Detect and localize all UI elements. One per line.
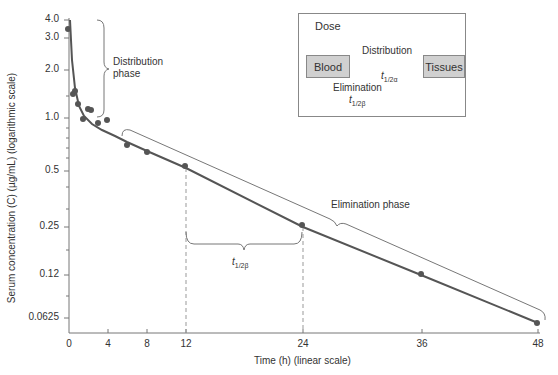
inset-alpha-halflife: t1/2α — [381, 70, 398, 83]
half-life-brace — [186, 232, 302, 250]
chart-canvas — [0, 0, 558, 375]
x-tick-label: 36 — [410, 338, 434, 349]
half-life-beta-label: t1/2β — [232, 256, 249, 269]
alpha-sub: 1/2α — [384, 76, 398, 83]
inset-elimination-label: Elimination — [333, 82, 382, 93]
x-tick-label: 12 — [174, 338, 198, 349]
y-ticks — [64, 20, 69, 318]
y-tick-label: 2.0 — [19, 63, 59, 74]
x-tick-label: 0 — [57, 338, 81, 349]
distribution-phase-label: Distribution phase — [113, 56, 163, 80]
y-tick-label: 0.5 — [19, 164, 59, 175]
x-axis-title: Time (h) (linear scale) — [254, 355, 351, 366]
tissues-compartment: Tissues — [423, 55, 465, 78]
blood-compartment: Blood — [306, 55, 350, 78]
y-tick-label: 0.12 — [19, 268, 59, 279]
inset-beta-halflife: t1/2β — [349, 94, 366, 107]
y-tick-label: 4.0 — [19, 13, 59, 24]
x-tick-label: 8 — [135, 338, 159, 349]
half-life-beta-sub: 1/2β — [235, 262, 249, 269]
beta-sub: 1/2β — [352, 100, 366, 107]
inset-distribution-label: Distribution — [362, 45, 412, 56]
y-tick-label: 3.0 — [19, 31, 59, 42]
elimination-brace — [122, 130, 545, 320]
inset-dose-label: Dose — [315, 20, 341, 32]
distribution-phase-line2: phase — [113, 68, 163, 80]
elimination-phase-label: Elimination phase — [331, 199, 410, 210]
y-tick-label: 0.0625 — [19, 311, 59, 322]
x-tick-label: 48 — [526, 338, 550, 349]
y-tick-label: 1.0 — [19, 111, 59, 122]
distribution-brace — [97, 20, 109, 117]
distribution-phase-line1: Distribution — [113, 56, 163, 68]
y-axis-title: Serum concentration (C) (µg/mL) (logarit… — [6, 73, 17, 303]
x-ticks — [108, 329, 538, 333]
x-tick-label: 24 — [291, 338, 315, 349]
x-tick-label: 4 — [96, 338, 120, 349]
y-tick-label: 0.25 — [19, 220, 59, 231]
